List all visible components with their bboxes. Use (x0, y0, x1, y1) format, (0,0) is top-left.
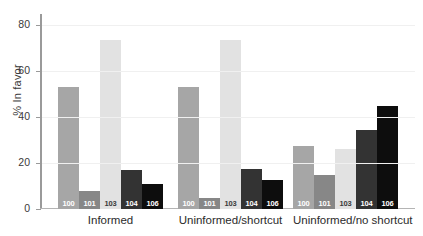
bar[interactable]: 106 (377, 106, 398, 209)
bar-value-label: 103 (100, 199, 121, 208)
gridline-20 (42, 163, 415, 164)
y-tick-label-60: 60 (8, 64, 30, 76)
bar-value-label: 101 (199, 199, 220, 208)
y-tick-label-80: 80 (8, 18, 30, 30)
bar-value-label: 101 (79, 199, 100, 208)
y-tick-mark-80 (36, 25, 41, 26)
y-tick-mark-0 (36, 209, 41, 210)
bar-group: 100101103104106Uninformed/shortcut (178, 14, 283, 209)
y-tick-label-0: 0 (8, 202, 30, 214)
bar-value-label: 103 (335, 199, 356, 208)
y-tick-label-20: 20 (8, 156, 30, 168)
bars: 100101103104106 (293, 14, 398, 209)
bar[interactable]: 101 (314, 175, 335, 209)
bar-value-label: 103 (220, 199, 241, 208)
bar[interactable]: 103 (220, 40, 241, 209)
x-category-label: Uninformed/shortcut (178, 214, 283, 226)
bar[interactable]: 104 (241, 169, 262, 209)
bar-value-label: 106 (262, 199, 283, 208)
bar[interactable]: 100 (293, 146, 314, 209)
bar[interactable]: 104 (121, 170, 142, 209)
bar-value-label: 106 (142, 199, 163, 208)
bars: 100101103104106 (178, 14, 283, 209)
bar[interactable]: 104 (356, 130, 377, 209)
bar[interactable]: 101 (79, 191, 100, 209)
gridline-40 (42, 117, 415, 118)
bar-value-label: 100 (178, 199, 199, 208)
bar[interactable]: 100 (178, 87, 199, 209)
x-category-label: Informed (58, 214, 163, 226)
bar[interactable]: 101 (199, 198, 220, 209)
x-category-label: Uninformed/no shortcut (293, 214, 398, 226)
y-tick-mark-60 (36, 71, 41, 72)
gridline-60 (42, 71, 415, 72)
plot-area: 100101103104106Informed100101103104106Un… (40, 14, 415, 209)
bar[interactable]: 100 (58, 87, 79, 209)
y-tick-mark-40 (36, 117, 41, 118)
bar-chart: % In favor 020406080 100101103104106Info… (0, 0, 423, 236)
bar[interactable]: 103 (100, 40, 121, 209)
bar-group: 100101103104106Informed (58, 14, 163, 209)
bar-value-label: 104 (121, 199, 142, 208)
bar-value-label: 104 (356, 199, 377, 208)
bar-value-label: 101 (314, 199, 335, 208)
bar-value-label: 100 (58, 199, 79, 208)
bar[interactable]: 106 (142, 184, 163, 209)
bar-groups: 100101103104106Informed100101103104106Un… (40, 14, 415, 209)
bar-value-label: 106 (377, 199, 398, 208)
y-axis-tick-labels: 020406080 (4, 0, 30, 236)
y-tick-label-40: 40 (8, 110, 30, 122)
y-tick-mark-20 (36, 163, 41, 164)
bar-value-label: 100 (293, 199, 314, 208)
bar[interactable]: 106 (262, 180, 283, 209)
bars: 100101103104106 (58, 14, 163, 209)
bar[interactable]: 103 (335, 149, 356, 209)
gridline-80 (42, 25, 415, 26)
bar-group: 100101103104106Uninformed/no shortcut (293, 14, 398, 209)
bar-value-label: 104 (241, 199, 262, 208)
